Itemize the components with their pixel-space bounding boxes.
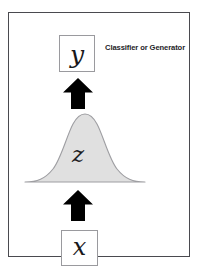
figure-diagram: Classifier or Generator y z x [0, 0, 199, 268]
caption-label: Classifier or Generator [105, 43, 193, 53]
output-variable-label: y [70, 42, 84, 67]
output-variable-box: y [59, 35, 95, 72]
diagram-frame: Classifier or Generator y z x [8, 12, 190, 257]
input-variable-box: x [61, 230, 98, 266]
arrow-up-input-to-latent-icon [62, 189, 94, 222]
arrow-up-latent-to-output-icon [62, 77, 94, 110]
input-variable-label: x [73, 235, 87, 259]
latent-variable-label: z [63, 139, 93, 169]
